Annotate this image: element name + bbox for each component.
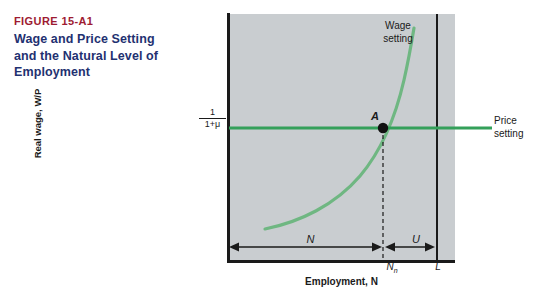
point-a-label: A [371,110,379,122]
chart-overlay [0,0,556,297]
figure-page: FIGURE 15-A1 Wage and Price Setting and … [0,0,556,297]
fraction-numerator: 1 [199,107,226,118]
y-axis-tick-markup-fraction: 1 1+μ [199,107,226,130]
x-axis-label: Employment, N [228,276,455,287]
equilibrium-point-a [378,123,388,133]
chart-figure: Real wage, W/P 1 1+μ Employment, N Wage … [0,0,556,297]
price-setting-label-line-1: Price [494,115,552,128]
unemployment-bracket-label: U [396,233,436,245]
price-setting-label-line-2: setting [494,128,552,141]
wage-setting-label: Wage setting [368,20,428,45]
fraction-denominator: 1+μ [199,118,226,130]
price-setting-label: Price setting [494,115,552,140]
labor-force-tick-label: L [424,261,452,272]
wage-setting-label-line-2: setting [368,33,428,46]
wage-setting-label-line-1: Wage [368,20,428,33]
natural-employment-tick-label: Nn [376,261,408,274]
employment-bracket-label: N [228,233,393,245]
natural-employment-subscript: n [394,267,398,274]
y-axis-label: Real wage, W/P [32,69,43,179]
